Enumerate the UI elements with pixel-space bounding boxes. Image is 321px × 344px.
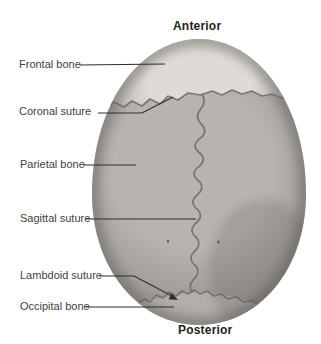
skull-illustration	[0, 0, 321, 344]
lower-right-shading	[209, 200, 319, 340]
figure-skull-superior-view: Anterior Frontal bone Coronal suture Par…	[0, 0, 321, 344]
label-frontal-bone: Frontal bone	[19, 58, 81, 71]
label-parietal-bone: Parietal bone	[20, 158, 85, 171]
parietal-foramen-left	[167, 240, 170, 243]
label-coronal-suture: Coronal suture	[19, 105, 91, 118]
orientation-label-posterior: Posterior	[178, 324, 232, 337]
label-occipital-bone: Occipital bone	[20, 300, 90, 313]
label-sagittal-suture: Sagittal suture	[20, 212, 90, 225]
label-lambdoid-suture: Lambdoid suture	[20, 269, 102, 282]
orientation-label-anterior: Anterior	[173, 20, 221, 33]
parietal-foramen-right	[217, 241, 220, 244]
